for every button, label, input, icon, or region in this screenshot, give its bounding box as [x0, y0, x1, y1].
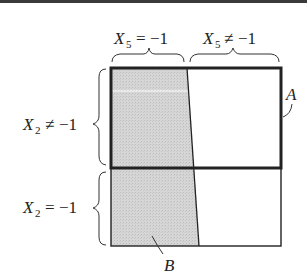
leader-a [283, 104, 292, 117]
svg-text:5: 5 [126, 38, 132, 50]
label-a: A [285, 85, 297, 104]
svg-text:−1: −1 [238, 29, 256, 48]
svg-text:X: X [22, 115, 34, 134]
venn-partition-diagram: X 5 = −1 X 5 ≠ −1 X 2 ≠ −1 X 2 = −1 A B [0, 0, 307, 280]
region-b-shade [111, 68, 199, 246]
svg-text:=: = [136, 29, 146, 48]
brace-left-bottom [93, 172, 106, 245]
label-x5-neq: X 5 ≠ −1 [202, 29, 256, 50]
svg-text:X: X [22, 198, 34, 217]
svg-text:2: 2 [35, 124, 41, 136]
svg-text:2: 2 [35, 207, 41, 219]
label-x2-eq: X 2 = −1 [22, 198, 77, 219]
svg-text:5: 5 [215, 38, 221, 50]
brace-top-right [190, 48, 279, 62]
label-x5-eq: X 5 = −1 [113, 29, 168, 50]
brace-left-top [93, 69, 106, 165]
brace-top-left [112, 48, 184, 62]
svg-text:X: X [202, 29, 214, 48]
label-b: B [164, 256, 175, 275]
svg-text:X: X [113, 29, 125, 48]
svg-text:−1: −1 [59, 198, 77, 217]
svg-text:=: = [45, 198, 55, 217]
svg-text:≠: ≠ [45, 115, 54, 134]
svg-text:≠: ≠ [224, 29, 233, 48]
svg-text:−1: −1 [150, 29, 168, 48]
svg-text:−1: −1 [59, 115, 77, 134]
label-x2-neq: X 2 ≠ −1 [22, 115, 77, 136]
